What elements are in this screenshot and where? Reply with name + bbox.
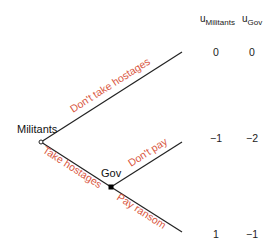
svg-text:uGov: uGov <box>242 13 262 27</box>
militants-label: Militants <box>17 123 58 135</box>
payoff-3-gov: −1 <box>246 228 258 240</box>
payoff-2-militants: −1 <box>210 132 222 144</box>
branch-dont-take <box>41 52 182 142</box>
payoff-2-gov: −2 <box>246 132 258 144</box>
militants-node <box>39 140 43 144</box>
action-pay: Pay ransom <box>115 191 169 232</box>
payoff-header: uMilitants uGov <box>200 13 262 27</box>
game-tree: Militants Gov Don't take hostages Take h… <box>0 0 273 249</box>
gov-node <box>109 185 114 190</box>
payoff-1-militants: 0 <box>213 46 219 58</box>
action-take: Take hostages <box>41 144 104 191</box>
gov-label: Gov <box>101 167 122 179</box>
payoff-1-gov: 0 <box>249 46 255 58</box>
action-dont-take: Don't take hostages <box>68 55 152 115</box>
svg-text:uMilitants: uMilitants <box>200 13 235 27</box>
payoff-3-militants: 1 <box>213 228 219 240</box>
